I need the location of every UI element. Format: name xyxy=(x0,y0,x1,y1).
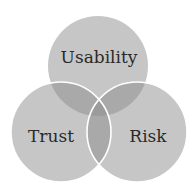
venn-diagram: Usability Trust Risk xyxy=(0,0,196,196)
risk-label: Risk xyxy=(129,126,167,146)
trust-label: Trust xyxy=(28,126,74,146)
usability-label: Usability xyxy=(61,47,138,67)
